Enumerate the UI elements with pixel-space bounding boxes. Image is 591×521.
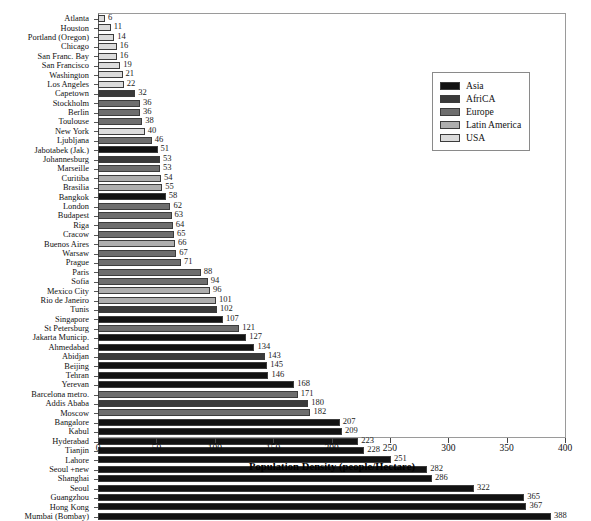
y-axis-label: St Petersburg	[0, 324, 92, 333]
bar	[98, 81, 124, 88]
y-axis-label: Mexico City	[0, 286, 92, 295]
y-axis-label-text: Yerevan	[61, 380, 89, 389]
y-axis-tick	[94, 75, 98, 76]
y-axis-label-text: Mumbai (Bombay)	[25, 512, 89, 521]
y-axis-label: Abidjan	[0, 352, 92, 361]
bar	[98, 344, 254, 351]
y-axis-tick	[94, 376, 98, 377]
bar-row: 286	[98, 474, 565, 483]
bar	[98, 71, 123, 78]
y-axis-label: Jabotabek (Jak.)	[0, 145, 92, 154]
y-axis-label: Tunis	[0, 305, 92, 314]
bar	[98, 306, 217, 313]
y-axis-label-text: Moscow	[60, 409, 89, 418]
y-axis-label-text: Paris	[72, 268, 89, 277]
bar	[98, 175, 161, 182]
bar-row: 143	[98, 352, 565, 361]
x-axis-title: Population Density (people/Hectare)	[98, 461, 566, 472]
y-axis-tick	[94, 517, 98, 518]
bar-row: 134	[98, 343, 565, 352]
y-axis-label: Los Angeles	[0, 80, 92, 89]
y-axis-tick	[94, 131, 98, 132]
legend-swatch	[440, 121, 460, 129]
bar	[98, 494, 524, 501]
y-axis-label-text: Seoul	[70, 484, 89, 493]
bar-value-label: 71	[184, 256, 193, 267]
y-axis-label: Ljubljana	[0, 136, 92, 145]
bar	[98, 43, 117, 50]
y-axis-label-text: Shanghai	[58, 474, 89, 483]
bar	[98, 372, 268, 379]
bar-value-label: 107	[226, 313, 239, 324]
y-axis-tick	[94, 94, 98, 95]
bar	[98, 334, 246, 341]
bar-value-label: 322	[477, 482, 490, 493]
y-axis-tick	[94, 282, 98, 283]
y-axis-category-labels: AtlantaHoustonPortland (Oregon)ChicagoSa…	[0, 14, 92, 437]
y-axis-tick	[94, 254, 98, 255]
bar	[98, 100, 140, 107]
y-axis-label-text: Brasilia	[63, 183, 89, 192]
y-axis-label-text: Singapore	[55, 315, 89, 324]
x-axis-tick-label: 150	[266, 443, 280, 453]
bar	[98, 419, 340, 426]
bar	[98, 137, 152, 144]
y-axis-label: Prague	[0, 258, 92, 267]
y-axis-tick	[94, 113, 98, 114]
y-axis-label-text: Budapest	[58, 211, 89, 220]
y-axis-label: Buenos Aires	[0, 239, 92, 248]
y-axis-tick	[94, 122, 98, 123]
bar	[98, 391, 298, 398]
y-axis-label-text: St Petersburg	[44, 324, 89, 333]
y-axis-label-text: Abidjan	[62, 352, 89, 361]
bar-value-label: 286	[435, 472, 448, 483]
y-axis-tick	[94, 489, 98, 490]
y-axis-label: Beijing	[0, 361, 92, 370]
y-axis-label: San Franc. Bay	[0, 52, 92, 61]
bar-row: 365	[98, 493, 565, 502]
y-axis-tick	[94, 56, 98, 57]
y-axis-label-text: Ahmedabad	[49, 343, 89, 352]
y-axis-label-text: London	[63, 202, 89, 211]
bar-row: 14	[98, 33, 565, 42]
bar-row: 16	[98, 42, 565, 51]
bar-row: 96	[98, 286, 565, 295]
y-axis-tick	[94, 423, 98, 424]
y-axis-label-text: Kabul	[69, 427, 89, 436]
y-axis-label-text: Guangzhou	[50, 493, 89, 502]
legend-label: Asia	[466, 80, 484, 91]
bar-row: 146	[98, 371, 565, 380]
legend-item: Latin America	[440, 118, 521, 131]
y-axis-tick	[94, 19, 98, 20]
y-axis-tick	[94, 197, 98, 198]
bar-row: 207	[98, 418, 565, 427]
y-axis-tick	[94, 47, 98, 48]
y-axis-label-text: Seoul +new	[49, 465, 89, 474]
y-axis-label-text: Houston	[61, 24, 89, 33]
bar-row: 101	[98, 296, 565, 305]
y-axis-tick	[94, 310, 98, 311]
y-axis-tick	[94, 178, 98, 179]
y-axis-tick	[94, 451, 98, 452]
legend-swatch	[440, 95, 460, 103]
bar-row: 102	[98, 305, 565, 314]
y-axis-label: Riga	[0, 221, 92, 230]
y-axis-label-text: Atlanta	[64, 14, 89, 23]
y-axis-tick	[94, 141, 98, 142]
y-axis-tick	[94, 291, 98, 292]
y-axis-tick	[94, 103, 98, 104]
y-axis-label: Berlin	[0, 108, 92, 117]
legend-label: Latin America	[466, 119, 521, 130]
y-axis-label-text: Mexico City	[47, 287, 89, 296]
y-axis-tick	[94, 432, 98, 433]
bar-row: 6	[98, 14, 565, 23]
y-axis-label-text: Bangalore	[55, 418, 89, 427]
y-axis-label: Marseille	[0, 164, 92, 173]
bar	[98, 90, 135, 97]
bar	[98, 475, 432, 482]
x-axis-tick-label: 400	[558, 443, 572, 453]
x-axis-tick-label: 100	[208, 443, 222, 453]
y-axis-tick	[94, 507, 98, 508]
y-axis-label: Paris	[0, 268, 92, 277]
